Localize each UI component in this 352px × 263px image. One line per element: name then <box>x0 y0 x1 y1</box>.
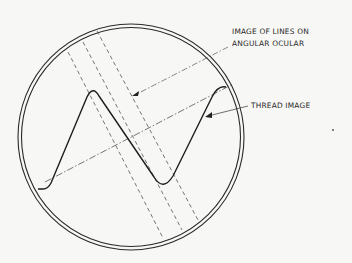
label-lines-line1: IMAGE OF LINES ON <box>232 27 309 37</box>
ocular-line-3 <box>97 31 198 220</box>
ocular-leader-arrow-icon <box>132 91 139 96</box>
ocular-line-2 <box>83 42 182 230</box>
label-lines-line2: ANGULAR OCULAR <box>232 39 304 49</box>
thread-axis-line <box>45 84 233 182</box>
speck <box>332 129 334 131</box>
thread-leader-arrow-icon <box>205 112 212 118</box>
ocular-leader-line <box>135 47 228 95</box>
label-thread-image: THREAD IMAGE <box>251 101 310 111</box>
ocular-lines <box>68 31 198 238</box>
